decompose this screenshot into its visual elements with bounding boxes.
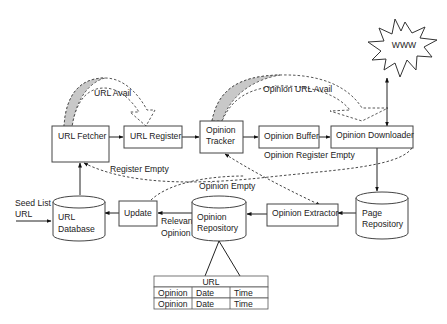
opinion-extractor-node: Opinion Extractor [267, 204, 339, 226]
table-cell: Opinion [158, 299, 188, 309]
opinion-repository-line2: Repository [197, 223, 239, 233]
seed-url-label: URL [15, 209, 32, 219]
www-node: WWW [368, 19, 437, 77]
opinion-tracker-line2: Tracker [206, 136, 235, 146]
url-register-label: URL Register [130, 131, 181, 141]
relevant-opinion-label: Opinion [161, 228, 191, 238]
opinion-downloader-label: Opinion Downloader [336, 130, 414, 140]
opinion-empty-label: Opinion Empty [199, 181, 256, 191]
opinion-url-avail-arrow: Opinion URL Avail [212, 75, 388, 121]
repository-to-table-connector [205, 241, 240, 276]
register-empty-label: Register Empty [110, 164, 169, 174]
table-cell: Date [196, 299, 214, 309]
url-fetcher-node: URL Fetcher [52, 126, 109, 162]
opinion-register-empty-label: Opinion Register Empty [264, 150, 355, 160]
opinion-extractor-label: Opinion Extractor [272, 208, 339, 218]
relevant-label: Relevant [161, 216, 196, 226]
url-fetcher-label: URL Fetcher [58, 131, 107, 141]
opinion-repository-node: Opinion Repository [192, 196, 246, 241]
table-cell: Date [196, 288, 214, 298]
table-header: URL [202, 277, 219, 287]
table-cell: Opinion [158, 288, 188, 298]
opinion-table: URL Opinion Date Time Opinion Date Time [154, 276, 268, 309]
table-cell: Time [234, 299, 253, 309]
url-database-line2: Database [58, 224, 95, 234]
opinion-crawler-architecture-diagram: WWW URL Avail Opinion URL Avail Register… [0, 0, 447, 324]
url-register-node: URL Register [124, 126, 182, 148]
opinion-url-avail-label: Opinion URL Avail [263, 84, 332, 94]
url-avail-arrow: URL Avail [64, 78, 155, 127]
url-avail-label: URL Avail [94, 88, 131, 98]
page-repository-line2: Repository [362, 219, 404, 229]
edge-tracker-extractor [225, 154, 320, 205]
seed-list-label: Seed List [15, 198, 51, 208]
url-database-line1: URL [58, 212, 75, 222]
table-cell: Time [234, 288, 253, 298]
opinion-buffer-node: Opinion Buffer [259, 126, 319, 148]
url-database-node: URL Database [53, 196, 105, 241]
www-label: WWW [392, 40, 417, 50]
opinion-tracker-line1: Opinion [206, 125, 236, 135]
opinion-buffer-label: Opinion Buffer [264, 131, 319, 141]
opinion-downloader-node: Opinion Downloader [331, 126, 414, 148]
opinion-tracker-node: Opinion Tracker [200, 121, 243, 153]
update-node: Update [119, 201, 157, 226]
page-repository-node: Page Repository [356, 192, 408, 239]
page-repository-line1: Page [362, 208, 382, 218]
update-label: Update [124, 208, 152, 218]
opinion-repository-line1: Opinion [197, 212, 227, 222]
